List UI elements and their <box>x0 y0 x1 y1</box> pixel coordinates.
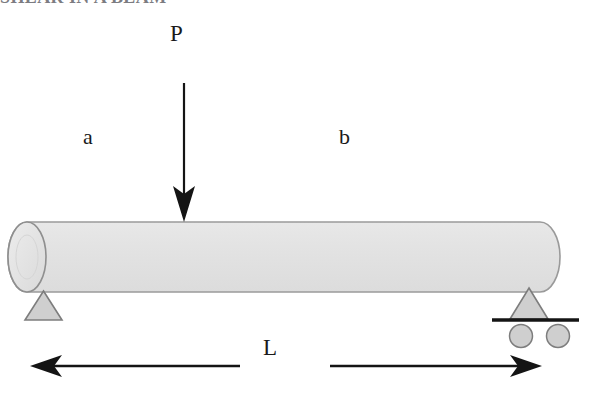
roller-support <box>492 288 579 348</box>
pin-support-triangle <box>25 291 62 320</box>
beam-body <box>8 222 560 292</box>
pin-support <box>25 291 62 320</box>
roller-wheel-left <box>510 325 533 348</box>
beam-left-end-cap <box>8 222 46 292</box>
span-dimension-line <box>30 355 542 377</box>
segment-label-b: b <box>339 126 350 148</box>
load-label-p: P <box>170 22 183 45</box>
span-label-l: L <box>263 336 277 359</box>
beam <box>8 222 560 292</box>
load-arrow <box>173 83 195 222</box>
segment-label-a: a <box>83 126 93 148</box>
diagram-canvas: SHEAR IN A BEAM <box>0 0 592 402</box>
beam-diagram-svg <box>0 0 592 402</box>
roller-wheel-right <box>547 325 570 348</box>
